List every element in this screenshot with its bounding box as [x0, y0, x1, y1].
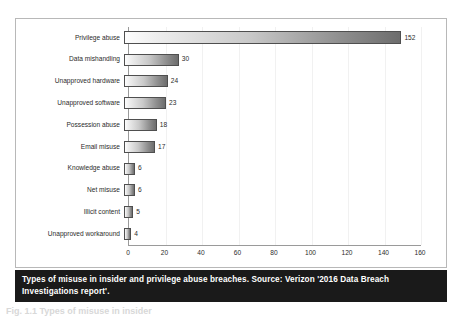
category-label: Data mishandling — [16, 56, 124, 63]
bar-value-label: 24 — [171, 78, 178, 85]
bar-container: 24 — [124, 71, 420, 93]
figure-caption-text: Types of misuse in insider and privilege… — [22, 274, 440, 297]
category-label: Unapproved workaround — [16, 231, 124, 238]
bar-value-label: 6 — [138, 187, 142, 194]
bar-row[interactable]: Unapproved workaround4 — [16, 223, 420, 245]
bar[interactable] — [124, 31, 401, 44]
bar-row[interactable]: Unapproved software23 — [16, 92, 420, 114]
category-label: Possession abuse — [16, 122, 124, 129]
bar-row[interactable]: Data mishandling30 — [16, 49, 420, 71]
bar-container: 152 — [124, 27, 420, 49]
x-tick-label: 60 — [234, 249, 241, 256]
x-tick-label: 160 — [414, 249, 425, 256]
x-tick-label: 100 — [305, 249, 316, 256]
category-label: Illicit content — [16, 209, 124, 216]
bar-row[interactable]: Privilege abuse152 — [16, 27, 420, 49]
bar[interactable] — [124, 119, 157, 131]
category-label: Net misuse — [16, 187, 124, 194]
bar[interactable] — [124, 206, 133, 218]
bar-value-label: 30 — [182, 56, 189, 63]
bar-container: 18 — [124, 114, 420, 136]
bar-value-label: 4 — [134, 231, 138, 238]
category-label: Knowledge abuse — [16, 165, 124, 172]
bar-container: 4 — [124, 223, 420, 245]
bar-rows: Privilege abuse152Data mishandling30Unap… — [16, 27, 420, 245]
bar-row[interactable]: Net misuse6 — [16, 180, 420, 202]
category-label: Privilege abuse — [16, 35, 124, 42]
bar[interactable] — [124, 141, 155, 153]
bar-container: 6 — [124, 158, 420, 180]
bar-container: 30 — [124, 49, 420, 71]
x-tick-label: 140 — [378, 249, 389, 256]
category-label: Unapproved software — [16, 100, 124, 107]
gridline — [421, 27, 422, 245]
x-tick-label: 0 — [126, 249, 130, 256]
bar[interactable] — [124, 54, 179, 66]
bar[interactable] — [124, 163, 135, 175]
bar-row[interactable]: Email misuse17 — [16, 136, 420, 158]
bar[interactable] — [124, 184, 135, 196]
bar-row[interactable]: Illicit content5 — [16, 201, 420, 223]
bar-value-label: 6 — [138, 165, 142, 172]
x-tick-label: 80 — [270, 249, 277, 256]
bar[interactable] — [124, 228, 131, 240]
bar-value-label: 5 — [136, 209, 140, 216]
bar[interactable] — [124, 75, 168, 87]
bar-container: 6 — [124, 180, 420, 202]
figure-caption-bar: Types of misuse in insider and privilege… — [15, 270, 447, 302]
x-tick-label: 120 — [341, 249, 352, 256]
x-tick-label: 20 — [161, 249, 168, 256]
bar-chart: Privilege abuse152Data mishandling30Unap… — [16, 19, 446, 267]
bar-value-label: 18 — [160, 122, 167, 129]
category-label: Email misuse — [16, 144, 124, 151]
bar-value-label: 152 — [404, 35, 415, 42]
x-tick-label: 40 — [197, 249, 204, 256]
bar-container: 23 — [124, 92, 420, 114]
bar-value-label: 23 — [169, 100, 176, 107]
figure-frame: Privilege abuse152Data mishandling30Unap… — [15, 18, 447, 268]
x-axis: 020406080100120140160 — [128, 247, 420, 263]
bar-row[interactable]: Unapproved hardware24 — [16, 71, 420, 93]
page-footer-text: Fig. 1.1 Types of misuse in insider — [6, 306, 306, 317]
bar-container: 17 — [124, 136, 420, 158]
bar-row[interactable]: Knowledge abuse6 — [16, 158, 420, 180]
category-label: Unapproved hardware — [16, 78, 124, 85]
bar[interactable] — [124, 97, 166, 109]
bar-value-label: 17 — [158, 144, 165, 151]
bar-container: 5 — [124, 201, 420, 223]
bar-row[interactable]: Possession abuse18 — [16, 114, 420, 136]
